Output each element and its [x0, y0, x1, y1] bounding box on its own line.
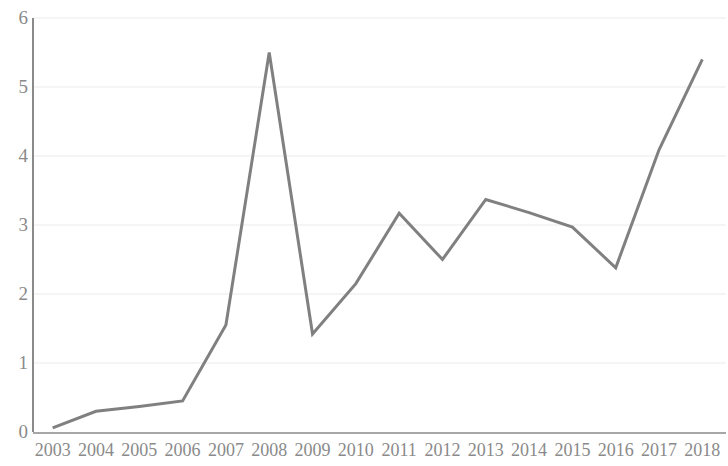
chart-plot-area	[0, 0, 728, 466]
y-axis-tick-label: 5	[8, 77, 28, 96]
gridlines	[33, 18, 726, 363]
x-axis-tick-label: 2012	[421, 441, 464, 459]
x-axis-tick-label: 2017	[637, 441, 680, 459]
x-axis-tick-label: 2007	[204, 441, 247, 459]
y-axis-tick-label: 0	[8, 422, 28, 441]
x-axis-tick-label: 2014	[507, 441, 550, 459]
x-axis-tick-label: 2009	[291, 441, 334, 459]
x-axis-tick-label: 2018	[681, 441, 724, 459]
x-axis-tick-label: 2015	[551, 441, 594, 459]
line-chart: 0123456 20032004200520062007200820092010…	[0, 0, 728, 466]
y-axis-tick-label: 1	[8, 353, 28, 372]
x-axis-tick-label: 2016	[594, 441, 637, 459]
x-axis-tick-label: 2008	[248, 441, 291, 459]
y-axis-tick-label: 4	[8, 146, 28, 165]
x-axis-tick-label: 2013	[464, 441, 507, 459]
x-axis-tick-label: 2004	[74, 441, 117, 459]
x-axis-tick-label: 2005	[118, 441, 161, 459]
data-series-line	[53, 53, 703, 428]
x-axis-tick-label: 2003	[31, 441, 74, 459]
y-axis-tick-labels: 0123456	[0, 0, 28, 466]
x-axis-tick-labels: 2003200420052006200720082009201020112012…	[0, 441, 728, 466]
x-axis-tick-label: 2010	[334, 441, 377, 459]
y-axis-tick-label: 3	[8, 215, 28, 234]
data-series-layer	[53, 53, 703, 428]
y-axis-tick-label: 6	[8, 8, 28, 27]
y-axis-tick-label: 2	[8, 284, 28, 303]
x-axis-tick-label: 2006	[161, 441, 204, 459]
x-axis-tick-label: 2011	[378, 441, 421, 459]
